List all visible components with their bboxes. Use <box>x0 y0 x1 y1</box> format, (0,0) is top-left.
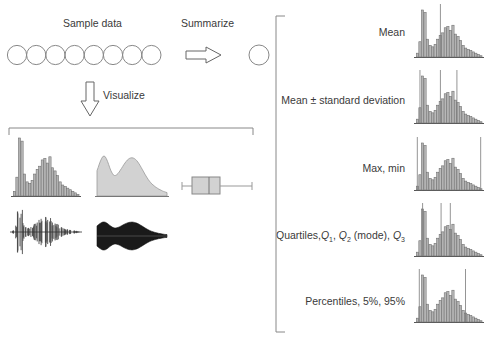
summary-histogram-1 <box>414 70 484 124</box>
summary-histogram-4 <box>414 269 484 323</box>
beeswarm-plot <box>10 210 82 254</box>
diagram-canvas <box>0 0 493 348</box>
visualize-arrow-icon <box>81 82 99 116</box>
sample-data-circles <box>7 45 161 64</box>
summaries-bracket <box>276 16 285 332</box>
summary-histogram-2 <box>414 137 484 191</box>
violin-plot <box>97 222 167 250</box>
summarize-arrow-icon <box>186 47 221 63</box>
histogram-plot <box>11 138 81 197</box>
summary-histogram-0 <box>414 4 484 58</box>
visualizations-bracket <box>9 128 253 135</box>
summary-histograms <box>414 4 484 323</box>
box-plot <box>182 177 252 194</box>
density-plot <box>95 156 169 197</box>
summary-histogram-3 <box>414 203 484 257</box>
summary-value-circle <box>249 45 269 65</box>
